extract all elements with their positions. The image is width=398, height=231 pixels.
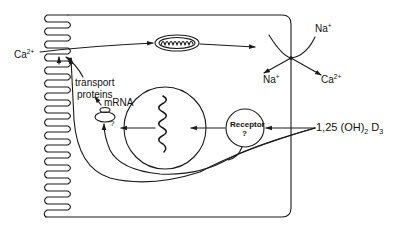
na-ca-exchanger-icon: [264, 35, 321, 75]
mrna-label: mRNA: [104, 98, 133, 108]
receptor-question-label: ?: [242, 130, 247, 138]
microvilli-brush-border: [44, 15, 70, 217]
na-bottom-label: Na+: [263, 74, 280, 85]
ca-out-base: Ca: [321, 74, 334, 85]
hormone-sub-d: 3: [379, 128, 383, 136]
hormone-d: D: [368, 121, 379, 133]
na-top-charge: +: [328, 22, 332, 29]
receptor-label: Receptor: [230, 121, 265, 129]
ca-lumen-label: Ca2+: [14, 49, 34, 60]
na-top-base: Na: [315, 23, 328, 34]
na-bottom-base: Na: [263, 74, 276, 85]
na-top-label: Na+: [315, 23, 332, 34]
ca-charge: 2+: [27, 48, 34, 55]
mitochondrion-icon: [155, 35, 199, 51]
ribosome-question-label: ?: [110, 120, 114, 128]
mito-to-exchanger-arrow: [200, 44, 255, 47]
diagram-canvas: [0, 0, 398, 231]
cell-membrane: [46, 15, 291, 217]
ca-out-charge: 2+: [334, 73, 341, 80]
ca-out-label: Ca2+: [321, 74, 341, 85]
na-bottom-charge: +: [276, 73, 280, 80]
cell-diagram: Ca2+ transport proteins mRNA ? Receptor …: [0, 0, 398, 231]
ca-base: Ca: [14, 49, 27, 60]
transport-label-line1: transport: [75, 78, 114, 88]
hormone-label: 1,25 (OH)2 D3: [316, 122, 383, 136]
dna-icon: [159, 96, 167, 152]
hormone-prefix: 1,25 (OH): [316, 121, 364, 133]
